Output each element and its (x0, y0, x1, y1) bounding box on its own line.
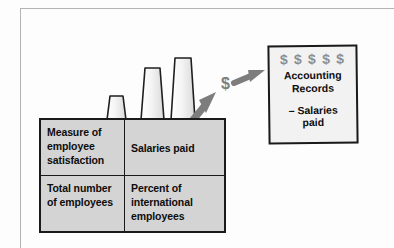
metrics-matrix: Measure of employee satisfaction Salarie… (39, 118, 226, 233)
process-diagram: Measure of employee satisfaction Salarie… (0, 0, 394, 248)
matrix-cell-total-employees[interactable]: Total number of employees (41, 176, 125, 231)
flow-arrow-short (234, 70, 265, 83)
matrix-cell-employee-satisfaction[interactable]: Measure of employee satisfaction (41, 120, 125, 176)
bar-3 (171, 58, 195, 120)
records-item-line-1: – Salaries (270, 103, 356, 117)
dollar-signs-row-icon: $ $ $ $ $ (269, 51, 355, 66)
bar-1 (107, 96, 126, 120)
records-title-line-2: Records (270, 81, 356, 95)
accounting-records-box[interactable]: $ $ $ $ $ Accounting Records – Salaries … (267, 44, 358, 144)
matrix-cell-percent-international[interactable]: Percent of international employees (125, 176, 224, 231)
records-item-line-2: paid (270, 116, 356, 130)
bar-2 (141, 68, 164, 120)
matrix-cell-salaries-paid[interactable]: Salaries paid (125, 120, 224, 176)
money-dollar-icon: $ (221, 76, 230, 92)
scanned-page: Measure of employee satisfaction Salarie… (0, 0, 394, 248)
records-title-line-1: Accounting (270, 68, 356, 82)
